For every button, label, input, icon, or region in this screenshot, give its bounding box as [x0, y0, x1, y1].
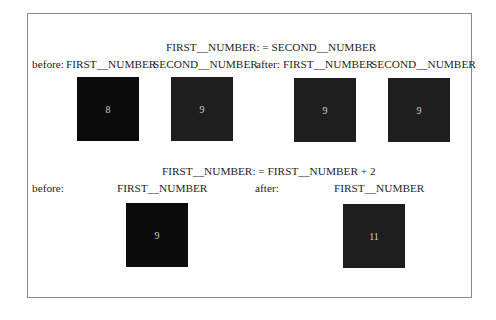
var-label-first-after-2: FIRST__NUMBER [334, 182, 424, 195]
statement-1: FIRST__NUMBER: = SECOND__NUMBER [166, 41, 376, 54]
var-box-second-before-1: 9 [171, 77, 233, 141]
var-value: 9 [323, 105, 328, 116]
before-label-1: before: [32, 58, 64, 71]
after-label-2: after: [255, 182, 279, 195]
var-value: 9 [200, 104, 205, 115]
var-box-first-before-1: 8 [77, 77, 139, 141]
var-box-second-after-1: 9 [388, 78, 450, 142]
diagram-frame [27, 13, 472, 298]
var-box-first-after-2: 11 [343, 204, 405, 268]
var-label-first-after-1: FIRST__NUMBER [283, 58, 373, 71]
after-label-1: after: [256, 58, 280, 71]
var-value: 11 [369, 231, 379, 242]
statement-2: FIRST__NUMBER: = FIRST__NUMBER + 2 [162, 165, 376, 178]
var-box-first-before-2: 9 [126, 203, 188, 267]
var-label-first-before-2: FIRST__NUMBER [117, 182, 207, 195]
var-box-first-after-1: 9 [294, 78, 356, 142]
var-value: 9 [155, 230, 160, 241]
var-label-first-before-1: FIRST__NUMBER [66, 58, 156, 71]
var-value: 9 [417, 105, 422, 116]
var-value: 8 [106, 104, 111, 115]
before-label-2: before: [32, 182, 64, 195]
var-label-second-after-1: SECOND__NUMBER [371, 58, 476, 71]
var-label-second-before-1: SECOND__NUMBER [153, 58, 258, 71]
